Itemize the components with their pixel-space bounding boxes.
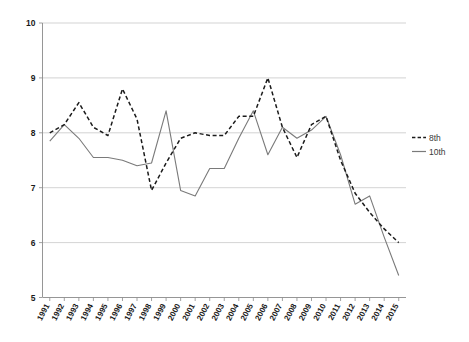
x-axis-tick-label: 2004 xyxy=(224,302,241,322)
series-line-10th xyxy=(50,111,399,276)
x-axis-tick-label: 2014 xyxy=(370,302,387,322)
legend-label-10th: 10th xyxy=(429,147,446,157)
y-axis-tick-label: 5 xyxy=(31,293,36,303)
x-axis-tick-label: 1991 xyxy=(35,302,52,322)
x-axis-tick-label: 1997 xyxy=(122,302,139,322)
y-axis-tick-label: 7 xyxy=(31,183,36,193)
x-axis-tick-label: 2013 xyxy=(355,302,372,322)
x-axis-tick-labels: 1991199219931994199519961997199819992000… xyxy=(35,302,401,322)
x-axis-tick-label: 1996 xyxy=(108,302,125,322)
x-axis-tick-label: 2003 xyxy=(210,302,227,322)
x-axis-tick-label: 2010 xyxy=(311,302,328,322)
x-axis-tick-label: 2012 xyxy=(341,302,358,322)
series-line-8th xyxy=(50,78,399,243)
x-axis-tick-label: 2008 xyxy=(282,302,299,322)
y-axis-tick-labels: 5678910 xyxy=(26,18,36,303)
x-axis-tick-label: 2005 xyxy=(239,302,256,322)
y-axis-tick-label: 10 xyxy=(26,18,36,28)
x-axis-tick-label: 1994 xyxy=(79,302,96,322)
x-axis-tick-label: 1992 xyxy=(50,302,67,322)
legend-label-8th: 8th xyxy=(429,133,441,143)
x-axis-tick-label: 2015 xyxy=(384,302,401,322)
x-axis-tick-label: 1999 xyxy=(152,302,169,322)
x-axis-tick-label: 2000 xyxy=(166,302,183,322)
x-axis-tick-label: 1998 xyxy=(137,302,154,322)
y-axis-tick-label: 9 xyxy=(31,73,36,83)
x-axis-tick-label: 2006 xyxy=(253,302,270,322)
x-axis-tick-label: 2007 xyxy=(268,302,285,322)
y-axis-tick-label: 8 xyxy=(31,128,36,138)
y-axis-tick-label: 6 xyxy=(31,238,36,248)
x-axis-tick-label: 1995 xyxy=(93,302,110,322)
chart-container: 5678910 19911992199319941995199619971998… xyxy=(0,0,469,342)
line-chart: 5678910 19911992199319941995199619971998… xyxy=(0,0,469,342)
legend: 8th 10th xyxy=(412,133,446,157)
x-axis-tick-label: 2001 xyxy=(181,302,198,322)
x-axis-tick-label: 2009 xyxy=(297,302,314,322)
x-axis-tickmarks xyxy=(50,298,399,302)
gridlines-group xyxy=(39,23,406,298)
x-axis-tick-label: 2002 xyxy=(195,302,212,322)
x-axis-tick-label: 1993 xyxy=(64,302,81,322)
